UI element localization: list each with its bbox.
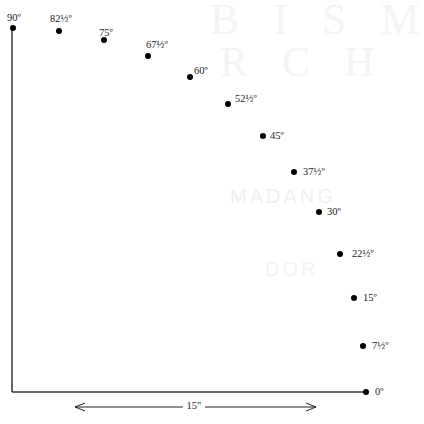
angle-point-label: 67½º xyxy=(146,40,168,51)
angle-point-dot xyxy=(316,209,322,215)
angle-point-label: 75º xyxy=(99,28,113,39)
angle-point-label: 52½º xyxy=(235,94,257,105)
angle-point-dot xyxy=(363,389,369,395)
angle-point-dot xyxy=(10,25,16,31)
angle-point-label: 30º xyxy=(327,207,341,218)
angle-point-label: 22½º xyxy=(352,249,374,260)
angle-point-label: 7½º xyxy=(372,341,388,352)
angle-points xyxy=(10,25,369,395)
angle-point-dot xyxy=(260,133,266,139)
angle-point-label: 15º xyxy=(363,293,377,304)
angle-point-dot xyxy=(145,53,151,59)
angle-point-dot xyxy=(187,74,193,80)
angle-point-dot xyxy=(360,343,366,349)
angle-point-label: 0º xyxy=(375,387,384,398)
angle-point-label: 60º xyxy=(194,66,208,77)
angle-point-dot xyxy=(56,28,62,34)
angle-point-dot xyxy=(225,101,231,107)
angle-point-dot xyxy=(351,295,357,301)
angle-point-label: 90º xyxy=(7,13,21,24)
dimension-label: 15" xyxy=(183,401,206,412)
angle-point-label: 37½º xyxy=(303,167,325,178)
angle-point-label: 45º xyxy=(270,131,284,142)
angle-point-dot xyxy=(337,251,343,257)
angle-point-dot xyxy=(291,169,297,175)
angle-point-label: 82½º xyxy=(50,14,72,25)
